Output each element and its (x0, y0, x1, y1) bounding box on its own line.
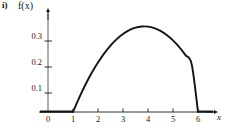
function-curve (73, 26, 198, 112)
function-plot-figure: i) f(x) x 0.3 0.2 0.1 0 1 2 3 4 5 6 (0, 0, 228, 136)
plot-canvas (0, 0, 228, 136)
